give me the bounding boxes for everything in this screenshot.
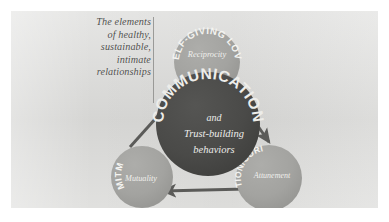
diagram-stage: SELF-GIVING LOVE Reciprocity ATTENTION/C… [11,11,378,208]
node-circle-communication[interactable] [156,72,260,176]
node-commitment[interactable]: COMMITMENT Mutuality [11,11,173,208]
arrow-attention-to-commitment [163,189,246,191]
diagram-figure: The elements of healthy, sustainable, in… [0,0,389,222]
node-arc-label-commitment: COMMITMENT [11,11,126,191]
node-circle-commitment[interactable] [111,146,173,208]
